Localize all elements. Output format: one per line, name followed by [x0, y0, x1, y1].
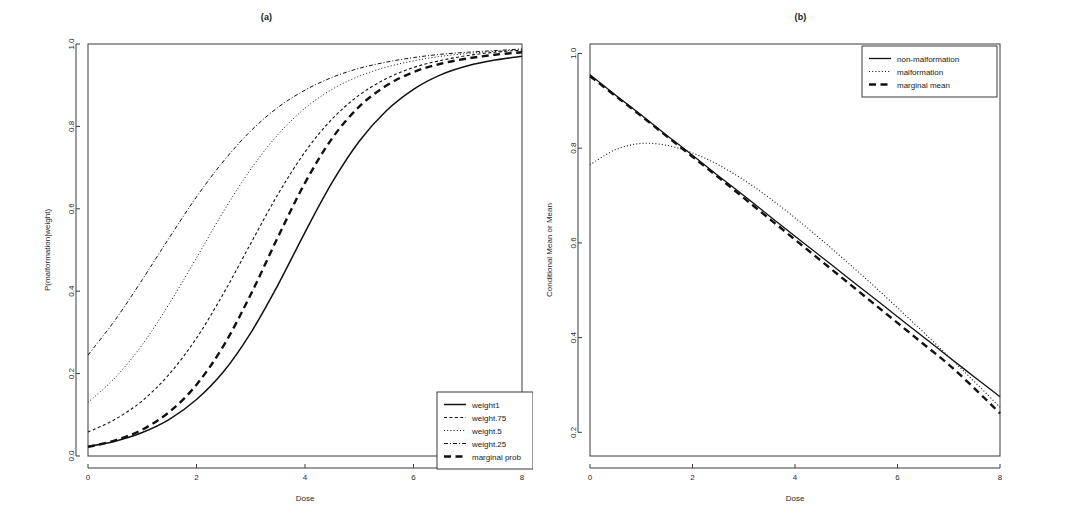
legend-label: weight.75 [471, 414, 507, 423]
series-line-marginal-prob [88, 52, 522, 447]
y-tick-label: 0.6 [67, 203, 76, 215]
series-line-weight1 [88, 56, 522, 446]
x-tick-label: 4 [303, 473, 308, 482]
x-tick-label: 0 [588, 473, 593, 482]
panel-a: (a) 02468Dose0.00.20.40.60.81.0P(malform… [0, 0, 533, 529]
y-tick-label: 0.8 [569, 142, 578, 154]
x-tick-label: 2 [690, 473, 695, 482]
panel-b-plot: 02468Dose0.20.40.60.81.0Conditional Mean… [534, 0, 1067, 529]
x-tick-label: 8 [520, 473, 525, 482]
legend-label: marginal prob [472, 453, 521, 462]
y-tick-label: 0.8 [67, 120, 76, 132]
y-tick-label: 0.4 [67, 285, 76, 297]
x-tick-label: 2 [194, 473, 199, 482]
legend-label: marginal mean [897, 81, 950, 90]
y-tick-label: 0.6 [569, 237, 578, 249]
y-tick-label: 0.2 [67, 367, 76, 379]
y-axis-title: P(malformation|weight) [43, 209, 52, 291]
x-tick-label: 8 [998, 473, 1003, 482]
y-tick-label: 0.0 [67, 450, 76, 462]
y-tick-label: 0.4 [569, 331, 578, 343]
x-tick-label: 6 [895, 473, 900, 482]
series-line-weight-5 [88, 50, 522, 403]
y-tick-label: 1.0 [569, 47, 578, 59]
series-line-weight-75 [88, 50, 522, 432]
series-line-weight-25 [88, 49, 522, 355]
legend-label: weight.5 [471, 427, 502, 436]
series-line-marginal-mean [590, 76, 1000, 413]
legend-label: non-malformation [897, 55, 959, 64]
x-axis-title: Dose [296, 494, 315, 503]
y-tick-label: 0.2 [569, 426, 578, 438]
y-tick-label: 1.0 [67, 38, 76, 50]
plot-frame [590, 44, 1000, 456]
figure-canvas: (a) 02468Dose0.00.20.40.60.81.0P(malform… [0, 0, 1067, 529]
panel-b: (b) 02468Dose0.20.40.60.81.0Conditional … [534, 0, 1067, 529]
series-line-malformation [590, 143, 1000, 407]
x-tick-label: 6 [411, 473, 416, 482]
y-axis-title: Conditional Mean or Mean [545, 203, 554, 297]
x-tick-label: 4 [793, 473, 798, 482]
legend-label: weight1 [471, 401, 500, 410]
x-axis-title: Dose [786, 494, 805, 503]
series-line-non-malformation [590, 75, 1000, 397]
legend-label: malformation [897, 68, 943, 77]
panel-a-plot: 02468Dose0.00.20.40.60.81.0P(malformatio… [0, 0, 533, 529]
legend-label: weight.25 [471, 440, 507, 449]
x-tick-label: 0 [86, 473, 91, 482]
